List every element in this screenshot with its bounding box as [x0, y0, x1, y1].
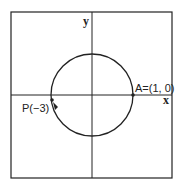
- unit-circle-diagram: y x A=(1, 0) P(−3): [0, 0, 180, 187]
- y-axis-label: y: [83, 14, 89, 28]
- point-a-label: A=(1, 0): [135, 82, 174, 94]
- point-p: [50, 98, 54, 102]
- point-p-label: P(−3): [22, 102, 49, 114]
- x-axis-label: x: [163, 93, 169, 107]
